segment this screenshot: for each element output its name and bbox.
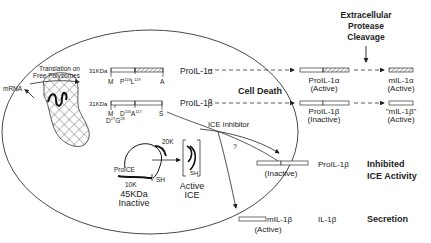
il1-processing-diagram: Translation on Free Polysomes mRNA 31KDa… — [0, 0, 431, 243]
inhibited-title-line1: Inhibited — [367, 159, 405, 169]
header-line1: Extracellular — [340, 10, 392, 20]
endoplasmic-reticulum — [43, 73, 89, 147]
ice-inhibitor-arrow — [200, 129, 279, 153]
secreted-mil1b-state: (Active) — [254, 225, 281, 234]
proice-20k: 20K — [162, 138, 174, 145]
proil1a-precursor-bar — [111, 68, 163, 77]
proice-label: ProICE — [114, 166, 136, 173]
inhibited-proil1b-bar — [257, 161, 308, 165]
proil1b-site-s: S — [159, 110, 164, 117]
proil1a-name: ProIL-1α — [180, 66, 213, 76]
mil1b-quoted-state: (Active) — [387, 115, 414, 124]
secreted-mil1b-bar — [239, 217, 266, 221]
mil1a-state: (Active) — [387, 84, 414, 93]
proil1b-size: 31KDa — [89, 101, 108, 107]
question-mark: ? — [233, 143, 237, 150]
secretion-title: Secretion — [367, 214, 408, 224]
inhibited-title-line2: ICE Activity — [367, 171, 417, 181]
active-ice-line2: ICE — [184, 190, 199, 200]
secreted-product: IL-1β — [318, 215, 337, 224]
proice-10k: 10K — [125, 181, 137, 188]
proil1a-site-pl: P118L119 — [120, 77, 142, 85]
mrna-arrow — [28, 92, 34, 98]
mil1a-bar — [389, 68, 413, 72]
active-ice-sh: SH — [190, 170, 198, 176]
inhibited-proil1b-state: (Inactive) — [265, 169, 298, 178]
proice-state: Inactive — [118, 198, 149, 208]
proil1a-site-a: A — [160, 78, 165, 85]
inhibited-proil1b-name: ProIL-1β — [318, 160, 349, 169]
extracellular-proil1b-bar — [300, 101, 349, 105]
proil1a-size: 31KDa — [89, 68, 108, 74]
proil1a-site-m: M — [108, 78, 113, 85]
secreted-mil1b-name: mIL-1β — [267, 215, 292, 224]
extracellular-proil1a-state: (Active) — [310, 84, 337, 93]
mrna-label: mRNA — [3, 85, 23, 92]
proil1b-name: ProIL-1β — [180, 98, 213, 108]
translation-label-line1: Translation on — [39, 65, 80, 72]
mil1b-quoted-bar — [389, 101, 413, 105]
extracellular-proil1a-bar — [300, 68, 349, 72]
proil1b-site-dg: D27G28 — [106, 116, 125, 124]
proice-sh: SH — [156, 176, 165, 183]
extracellular-proil1b-state: (Inactive) — [308, 115, 341, 124]
translation-label-line2: Free Polysomes — [33, 72, 81, 80]
cell-death-label: Cell Death — [238, 86, 282, 96]
ice-inhibitor-label: ICE Inhibitor — [208, 120, 250, 129]
cell-membrane — [2, 30, 298, 234]
header-line3: Cleavage — [347, 32, 385, 42]
header-line2: Protease — [348, 21, 384, 31]
